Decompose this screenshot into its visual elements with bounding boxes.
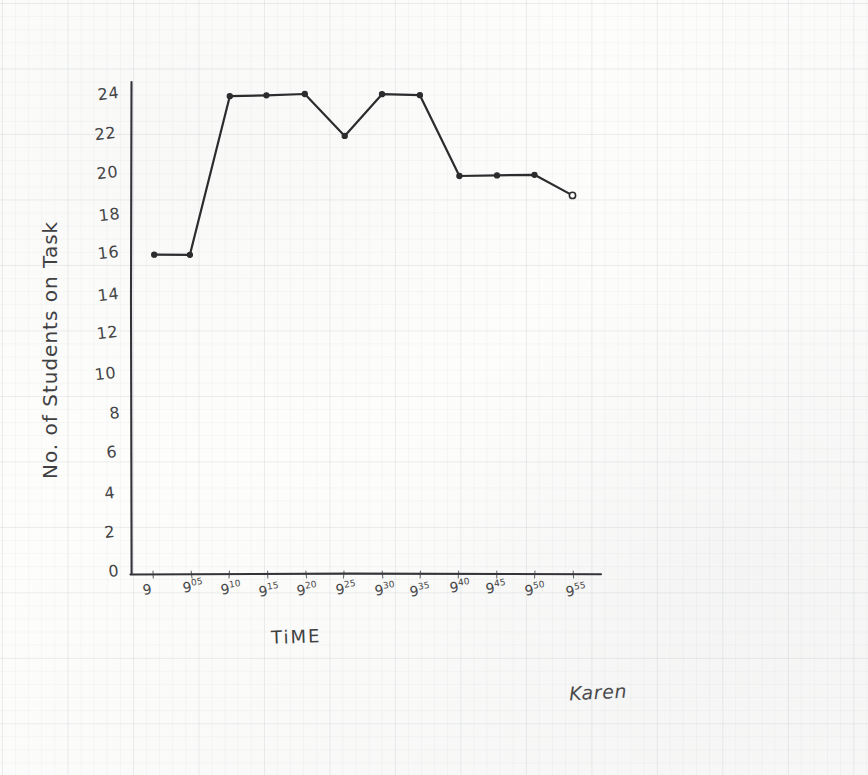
- data-point-marker: [417, 93, 422, 98]
- x-tick-label: 915: [258, 580, 281, 600]
- data-point-marker-open: [569, 192, 575, 198]
- y-tick-label: 22: [75, 123, 117, 146]
- x-tick-label: 925: [334, 578, 357, 598]
- data-point-marker: [152, 252, 157, 257]
- x-axis-title: TiME: [271, 625, 322, 648]
- x-tick-label: 9: [141, 581, 152, 598]
- x-tick-label: 910: [219, 578, 242, 598]
- x-tick-label-minutes: 05: [190, 576, 203, 588]
- y-tick-label: 10: [76, 363, 118, 386]
- x-tick-label-minutes: 45: [493, 577, 506, 589]
- x-tick-label-minutes: 35: [417, 580, 430, 592]
- x-tick-label-minutes: 10: [228, 578, 241, 590]
- data-point-marker: [187, 252, 192, 257]
- x-tick-label-minutes: 25: [343, 578, 356, 590]
- y-tick-label: 2: [74, 522, 116, 545]
- x-tick-label: 920: [296, 579, 319, 599]
- data-point-marker: [532, 172, 537, 177]
- y-tick-label: 24: [79, 83, 121, 106]
- x-tick-label: 940: [449, 576, 472, 596]
- data-point-marker: [227, 94, 232, 99]
- chart-axes: [131, 82, 602, 575]
- x-tick-mark: [343, 571, 344, 578]
- x-tick-label-minutes: 20: [305, 579, 318, 591]
- data-line: [154, 94, 572, 255]
- x-axis-line: [131, 574, 602, 575]
- x-tick-label-minutes: 55: [573, 580, 586, 592]
- x-tick-label-minutes: 30: [383, 579, 396, 591]
- x-tick-label: 950: [523, 579, 546, 599]
- x-tick-label: 905: [181, 576, 204, 596]
- data-point-marker: [457, 173, 462, 178]
- y-axis-line: [131, 82, 132, 574]
- line-chart-plot: [0, 0, 868, 775]
- scanned-worksheet: 024681012141618202224 990591091592092593…: [0, 0, 868, 775]
- data-point-marker: [379, 92, 384, 97]
- x-tick-label: 955: [564, 580, 587, 600]
- y-axis-title: No. of Students on Task: [38, 221, 62, 479]
- signature: Karen: [568, 679, 627, 704]
- data-point-marker: [494, 173, 499, 178]
- x-tick-label: 930: [374, 579, 397, 599]
- data-point-marker: [302, 91, 307, 96]
- x-tick-mark: [382, 571, 383, 578]
- x-tick-label: 945: [484, 577, 507, 597]
- y-tick-label: 12: [77, 322, 119, 345]
- x-tick-label-minutes: 40: [458, 576, 471, 588]
- x-tick-label: 935: [408, 580, 431, 600]
- y-tick-label: 4: [74, 483, 116, 506]
- x-tick-label-minutes: 15: [267, 580, 280, 592]
- data-point-marker: [342, 133, 347, 138]
- x-tick-mark: [306, 571, 307, 578]
- x-tick-label-minutes: 50: [532, 579, 545, 591]
- data-point-marker: [264, 93, 269, 98]
